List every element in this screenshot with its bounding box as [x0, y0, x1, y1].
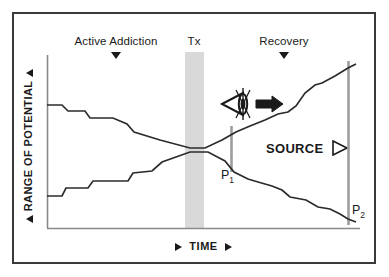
y-axis-title: RANGE OF POTENTIAL	[22, 56, 34, 236]
phase-marker-active-addiction	[111, 52, 121, 59]
figure-root: RANGE OF POTENTIAL TIME Active Addiction…	[0, 0, 389, 277]
phase-marker-recovery	[279, 52, 289, 59]
x-axis-title: TIME	[47, 240, 360, 252]
source-label-text: SOURCE	[266, 141, 323, 156]
x-axis-arrow-left-icon	[175, 243, 182, 251]
phase-label-recovery: Recovery	[259, 36, 308, 48]
point-label-p1: P1	[221, 168, 234, 185]
source-arrow-outline-icon	[331, 140, 349, 156]
phase-marker-tx	[189, 52, 199, 59]
point-label-p1-subscript: 1	[229, 175, 234, 185]
x-axis-arrow-right-icon	[225, 243, 232, 251]
figure-frame	[12, 12, 376, 264]
phase-label-tx: Tx	[188, 36, 201, 48]
point-label-p2: P2	[352, 203, 365, 220]
x-axis-title-text: TIME	[189, 240, 217, 252]
y-axis-title-text: RANGE OF POTENTIAL	[22, 81, 34, 211]
source-annotation: SOURCE	[266, 140, 349, 156]
phase-label-active-addiction: Active Addiction	[75, 36, 158, 48]
y-axis-arrow-top-icon	[26, 69, 33, 77]
point-label-p2-subscript: 2	[360, 210, 365, 220]
y-axis-arrow-bottom-icon	[26, 215, 33, 223]
